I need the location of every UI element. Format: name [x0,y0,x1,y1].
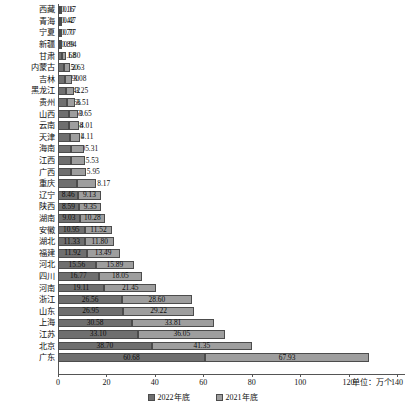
bar-row: 河北15.5615.89 [0,259,405,271]
bar-segment-2021: 11.80 [85,237,114,246]
category-label: 河南 [0,284,58,293]
category-label: 重庆 [0,179,58,188]
bar-segment-2021: 0.77 [60,29,62,38]
bar-value-label-2021: 3.25 [75,87,88,95]
bar-track: 33.1036.05 [58,330,405,339]
bar-segment-2021: 4.01 [69,121,79,130]
bar-value-label-2021: 10.28 [84,214,101,222]
bar-row: 海南5.505.31 [0,143,405,155]
bar-segment-2021: 11.52 [85,226,113,235]
bar-segment-2022: 3.42 [58,87,66,96]
bar-track: 11.3311.80 [58,237,405,246]
bar-row: 贵州3.663.51 [0,97,405,109]
stacked-bar: 5.505.31 [58,145,84,154]
bar-value-label-2021: 9.13 [83,191,96,199]
bar-value-label-2021: 28.60 [149,296,166,304]
bar-row: 江西5.535.53 [0,155,405,167]
bar-segment-2022: 38.70 [58,342,152,351]
bar-value-label-2021: 0.17 [63,6,76,14]
bar-track: 38.7041.35 [58,342,405,351]
stacked-bar: 3.423.25 [58,87,74,96]
bar-segment-2021: 0.17 [60,6,62,15]
category-label: 贵州 [0,98,58,107]
bar-value-label-2022: 8.59 [62,203,75,211]
bar-segment-2022: 10.95 [58,226,85,235]
stacked-bar: 33.1036.05 [58,330,225,339]
bar-value-label-2021: 15.89 [107,261,124,269]
bar-segment-2021: 33.81 [132,319,214,328]
x-axis-tick [397,374,398,377]
bar-segment-2021: 3.65 [69,110,78,119]
bar-row: 陕西8.599.35 [0,201,405,213]
bar-segment-2022: 30.58 [58,319,132,328]
legend-swatch-icon [216,394,224,402]
stacked-bar: 0.700.77 [58,29,62,38]
bar-row: 湖北11.3311.80 [0,236,405,248]
stacked-bar: 3.663.51 [58,98,75,107]
bar-segment-2021: 5.31 [71,145,84,154]
bar-segment-2021: 9.13 [78,191,100,200]
bar-segment-2022: 26.56 [58,295,122,304]
bar-value-label-2021: 4.11 [81,133,94,141]
bar-track: 2.903.08 [58,75,405,84]
bar-track: 0.160.17 [58,6,405,15]
bar-track: 5.565.95 [58,168,405,177]
bar-segment-2021: 8.17 [77,179,97,188]
category-label: 广东 [0,353,58,362]
bar-track: 30.5833.81 [58,319,405,328]
bar-value-label-2021: 21.45 [122,284,139,292]
category-label: 内蒙古 [0,63,58,72]
bar-value-label-2022: 30.58 [87,319,104,327]
bar-value-label-2021: 9.35 [84,203,97,211]
category-label: 海南 [0,144,58,153]
category-label: 天津 [0,133,58,142]
bar-track: 9.0310.28 [58,214,405,223]
bar-row: 宁夏0.700.77 [0,27,405,39]
bar-row: 上海30.5833.81 [0,317,405,329]
bar-segment-2021: 5.53 [71,156,84,165]
bar-row: 甘肃1.681.80 [0,50,405,62]
bar-track: 26.9529.22 [58,307,405,316]
bar-segment-2022: 16.77 [58,272,99,281]
legend-item[interactable]: 2022年底 [148,393,190,402]
stacked-bar: 10.9511.52 [58,226,112,235]
bar-segment-2022: 11.92 [58,249,87,258]
x-axis-tick-label: 140 [391,378,403,387]
unit-label: 单位：万个 [352,378,392,387]
category-label: 安徽 [0,226,58,235]
bar-row: 山西4.503.65 [0,108,405,120]
bar-row: 天津4.914.11 [0,132,405,144]
bar-row: 福建11.9213.49 [0,247,405,259]
bar-value-label-2021: 13.49 [95,249,112,257]
legend-item[interactable]: 2021年底 [216,393,258,402]
bar-value-label-2022: 26.56 [82,296,99,304]
category-label: 湖北 [0,237,58,246]
bar-segment-2021: 10.28 [80,214,105,223]
category-label: 浙江 [0,295,58,304]
stacked-bar: 26.5628.60 [58,295,192,304]
bar-row: 河南19.1121.45 [0,282,405,294]
bar-segment-2022: 5.53 [58,156,71,165]
stacked-bar: 8.599.35 [58,203,101,212]
category-label: 陕西 [0,202,58,211]
bar-track: 16.7718.05 [58,272,405,281]
bar-segment-2021: 0.47 [60,17,62,26]
x-axis-tick [155,374,156,377]
category-label: 辽宁 [0,191,58,200]
bar-value-label-2022: 10.95 [63,226,80,234]
bar-row: 青海0.420.47 [0,16,405,28]
x-axis-tick-label: 120 [343,378,355,387]
bar-segment-2021: 1.80 [62,52,66,61]
bar-segment-2021: 41.35 [152,342,252,351]
category-label: 山东 [0,307,58,316]
bar-value-label-2022: 19.11 [73,284,89,292]
bar-row: 广西5.565.95 [0,166,405,178]
category-label: 河北 [0,260,58,269]
bar-value-label-2022: 16.77 [70,272,87,280]
bar-value-label-2021: 29.22 [150,307,167,315]
bar-segment-2022: 9.03 [58,214,80,223]
bar-value-label-2022: 60.68 [123,354,140,362]
bar-segment-2021: 13.49 [87,249,120,258]
bar-segment-2022: 3.66 [58,98,67,107]
bar-row: 黑龙江3.423.25 [0,85,405,97]
